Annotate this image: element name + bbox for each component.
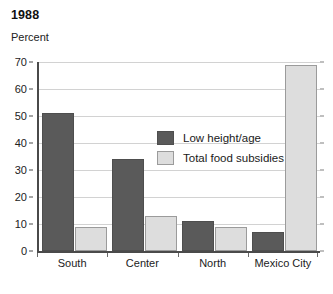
plot-area: Low height/age Total food subsidies bbox=[37, 62, 320, 253]
bar bbox=[182, 221, 214, 251]
y-tick-mark bbox=[29, 224, 33, 225]
bar bbox=[42, 113, 74, 251]
x-tick-label: Center bbox=[126, 257, 159, 269]
bar-group bbox=[39, 62, 109, 251]
right-tick-mark bbox=[320, 89, 324, 90]
x-tick-label: South bbox=[58, 257, 87, 269]
legend-item: Total food subsidies bbox=[157, 151, 284, 165]
right-tick-mark bbox=[320, 116, 324, 117]
legend-swatch-icon bbox=[157, 151, 174, 165]
y-tick-label: 20 bbox=[15, 191, 27, 203]
y-tick-label: 40 bbox=[15, 137, 27, 149]
legend-item: Low height/age bbox=[157, 131, 284, 145]
right-tick-mark bbox=[320, 170, 324, 171]
y-tick-mark bbox=[29, 116, 33, 117]
right-tick-mark bbox=[320, 62, 324, 63]
x-tick-label: Mexico City bbox=[254, 257, 311, 269]
y-tick-label: 70 bbox=[15, 56, 27, 68]
y-tick-label: 50 bbox=[15, 110, 27, 122]
bar bbox=[112, 159, 144, 251]
y-tick-mark bbox=[29, 143, 33, 144]
bar-chart-figure: 1988 Percent 010203040506070 Low height/… bbox=[0, 0, 333, 294]
y-tick-mark bbox=[29, 62, 33, 63]
legend-item-label: Low height/age bbox=[183, 132, 261, 144]
y-tick-label: 10 bbox=[15, 218, 27, 230]
y-tick-label: 30 bbox=[15, 164, 27, 176]
bar bbox=[285, 65, 317, 251]
bar bbox=[215, 227, 247, 251]
right-tick-mark bbox=[320, 224, 324, 225]
right-tick-mark bbox=[320, 143, 324, 144]
x-tick-label: North bbox=[199, 257, 226, 269]
page-title: 1988 bbox=[11, 8, 39, 22]
y-tick-mark bbox=[29, 170, 33, 171]
bar bbox=[252, 232, 284, 251]
bar bbox=[145, 216, 177, 251]
y-tick-mark bbox=[29, 197, 33, 198]
right-tick-mark bbox=[320, 197, 324, 198]
legend-swatch-icon bbox=[157, 131, 174, 145]
y-tick-label: 60 bbox=[15, 83, 27, 95]
y-axis-ticks: 010203040506070 bbox=[0, 62, 33, 253]
x-axis-labels: SouthCenterNorthMexico City bbox=[37, 257, 320, 277]
y-tick-label: 0 bbox=[21, 245, 27, 257]
y-tick-mark bbox=[29, 251, 33, 252]
bar bbox=[75, 227, 107, 251]
y-axis-title: Percent bbox=[11, 31, 49, 43]
y-tick-mark bbox=[29, 89, 33, 90]
legend: Low height/age Total food subsidies bbox=[157, 131, 284, 165]
right-tick-mark bbox=[320, 251, 324, 252]
legend-item-label: Total food subsidies bbox=[183, 152, 284, 164]
